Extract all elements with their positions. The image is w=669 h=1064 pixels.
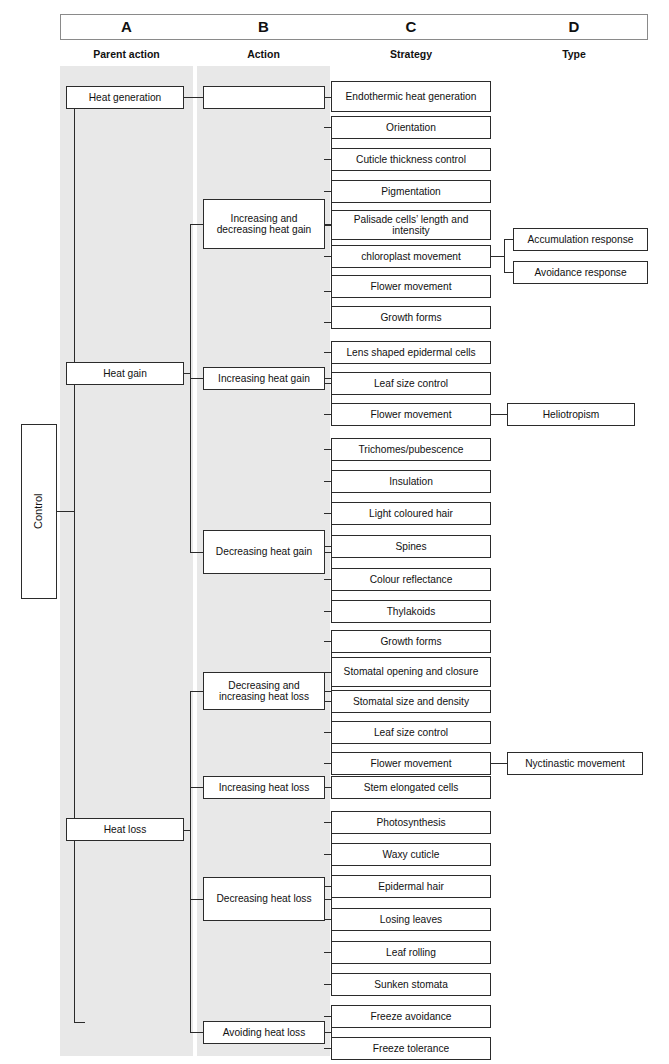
header-label-type: Type bbox=[500, 46, 648, 62]
node-strategy-growth-forms-2[interactable]: Growth forms bbox=[331, 630, 491, 653]
node-strategy-growth-forms-1[interactable]: Growth forms bbox=[331, 306, 491, 329]
node-type-accumulation-response[interactable]: Accumulation response bbox=[513, 228, 648, 251]
node-strategy-flower-movement-3[interactable]: Flower movement bbox=[331, 752, 491, 775]
node-strategy-insulation[interactable]: Insulation bbox=[331, 470, 491, 493]
node-strategy-trichomes-pubescence[interactable]: Trichomes/pubescence bbox=[331, 438, 491, 461]
connector-flower-to-heliotropism bbox=[491, 414, 507, 415]
connector-to-heat-loss bbox=[74, 1022, 85, 1023]
connector-type-accumulation bbox=[504, 239, 513, 240]
connector-to-inc-dec-heat-gain bbox=[190, 224, 203, 225]
node-type-avoidance-response[interactable]: Avoidance response bbox=[513, 261, 648, 284]
node-strategy-flower-movement-2[interactable]: Flower movement bbox=[331, 403, 491, 426]
node-strategy-waxy-cuticle[interactable]: Waxy cuticle bbox=[331, 843, 491, 866]
header-letter-d: D bbox=[500, 14, 648, 40]
node-strategy-light-coloured-hair[interactable]: Light coloured hair bbox=[331, 502, 491, 525]
header-letter-c: C bbox=[331, 14, 491, 40]
connector-to-avoiding-heat-loss bbox=[190, 1032, 203, 1033]
node-strategy-sunken-stomata[interactable]: Sunken stomata bbox=[331, 973, 491, 996]
connector-to-decreasing-heat-loss bbox=[190, 899, 203, 900]
node-strategy-stomatal-size-density[interactable]: Stomatal size and density bbox=[331, 690, 491, 713]
diagram-canvas: A B C D Parent action Action Strategy Ty… bbox=[0, 0, 669, 1064]
node-decreasing-increasing-heat-loss[interactable]: Decreasing and increasing heat loss bbox=[203, 672, 325, 710]
connector-to-increasing-heat-gain bbox=[190, 378, 203, 379]
node-strategy-stomatal-opening-closure[interactable]: Stomatal opening and closure bbox=[331, 657, 491, 687]
node-strategy-palisade-cells[interactable]: Palisade cells’ length and intensity bbox=[331, 210, 491, 240]
node-strategy-cuticle-thickness-control[interactable]: Cuticle thickness control bbox=[331, 148, 491, 171]
node-heat-generation[interactable]: Heat generation bbox=[66, 86, 184, 109]
connector-types-spine bbox=[504, 239, 505, 273]
node-strategy-spines[interactable]: Spines bbox=[331, 535, 491, 558]
node-strategy-chloroplast-movement[interactable]: chloroplast movement bbox=[331, 245, 491, 268]
node-strategy-freeze-tolerance[interactable]: Freeze tolerance bbox=[331, 1037, 491, 1060]
node-increasing-heat-loss[interactable]: Increasing heat loss bbox=[203, 776, 325, 799]
connector-group6-in bbox=[325, 899, 332, 900]
node-heat-loss[interactable]: Heat loss bbox=[66, 818, 184, 841]
header-label-strategy: Strategy bbox=[331, 46, 491, 62]
node-strategy-stem-elongated-cells[interactable]: Stem elongated cells bbox=[331, 776, 491, 799]
node-strategy-epidermal-hair[interactable]: Epidermal hair bbox=[331, 875, 491, 898]
connector-heat-generation-to-action bbox=[184, 97, 203, 98]
header-label-parent-action: Parent action bbox=[60, 46, 193, 62]
header-letter-b: B bbox=[197, 14, 330, 40]
connector-to-decreasing-heat-gain bbox=[190, 552, 203, 553]
node-strategy-freeze-avoidance[interactable]: Freeze avoidance bbox=[331, 1005, 491, 1028]
node-strategy-endothermic-heat-generation[interactable]: Endothermic heat generation bbox=[331, 81, 491, 112]
node-strategy-colour-reflectance[interactable]: Colour reflectance bbox=[331, 568, 491, 591]
node-strategy-leaf-size-control-2[interactable]: Leaf size control bbox=[331, 721, 491, 744]
node-increasing-decreasing-heat-gain[interactable]: Increasing and decreasing heat gain bbox=[203, 199, 325, 249]
node-strategy-leaf-rolling[interactable]: Leaf rolling bbox=[331, 941, 491, 964]
connector-to-increasing-heat-loss bbox=[190, 787, 203, 788]
node-control[interactable]: Control bbox=[21, 424, 57, 599]
node-decreasing-heat-loss[interactable]: Decreasing heat loss bbox=[203, 877, 325, 921]
node-strategy-thylakoids[interactable]: Thylakoids bbox=[331, 600, 491, 623]
connector-chloroplast-to-types bbox=[491, 256, 504, 257]
node-strategy-lens-shaped-epidermal-cells[interactable]: Lens shaped epidermal cells bbox=[331, 341, 491, 364]
connector-heat-loss-spine bbox=[190, 691, 191, 1032]
header-label-action: Action bbox=[197, 46, 330, 62]
connector-to-dec-inc-heat-loss bbox=[190, 691, 203, 692]
node-strategy-leaf-size-control-1[interactable]: Leaf size control bbox=[331, 372, 491, 395]
header-letter-a: A bbox=[60, 14, 193, 40]
node-type-heliotropism[interactable]: Heliotropism bbox=[507, 403, 635, 426]
connector-parent-spine bbox=[74, 97, 75, 1022]
node-action-empty[interactable] bbox=[203, 86, 325, 109]
node-strategy-losing-leaves[interactable]: Losing leaves bbox=[331, 908, 491, 931]
node-decreasing-heat-gain[interactable]: Decreasing heat gain bbox=[203, 530, 325, 574]
node-strategy-flower-movement-1[interactable]: Flower movement bbox=[331, 275, 491, 298]
node-avoiding-heat-loss[interactable]: Avoiding heat loss bbox=[203, 1021, 325, 1044]
node-heat-gain[interactable]: Heat gain bbox=[66, 362, 184, 385]
connector-heat-gain-spine-in bbox=[184, 373, 191, 374]
node-strategy-photosynthesis[interactable]: Photosynthesis bbox=[331, 811, 491, 834]
connector-heat-loss-spine-in bbox=[184, 830, 191, 831]
node-increasing-heat-gain[interactable]: Increasing heat gain bbox=[203, 367, 325, 390]
connector-group7-in bbox=[325, 1032, 332, 1033]
connector-heat-gain-spine bbox=[190, 224, 191, 552]
node-type-nyctinastic-movement[interactable]: Nyctinastic movement bbox=[507, 752, 643, 775]
node-strategy-orientation[interactable]: Orientation bbox=[331, 116, 491, 139]
node-strategy-pigmentation[interactable]: Pigmentation bbox=[331, 180, 491, 203]
connector-flower-to-nyctinastic bbox=[491, 763, 507, 764]
connector-type-avoidance bbox=[504, 272, 513, 273]
column-a-shading bbox=[60, 66, 193, 1056]
connector-root-out bbox=[57, 511, 74, 512]
